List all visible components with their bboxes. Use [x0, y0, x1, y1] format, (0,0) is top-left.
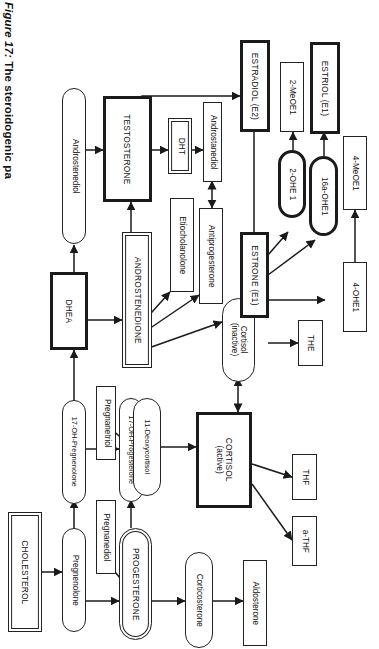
node-progesterone[interactable]: PROGESTERONE [119, 528, 152, 640]
node-label: ESTRIOL (E1) [321, 60, 330, 115]
node-17-oh-pregnenolone[interactable]: 17-OH-Pregnenolone [62, 400, 86, 504]
node-2-ohe-1[interactable]: 2-OHE 1 [278, 150, 306, 218]
node-label: Androstenediol [70, 139, 79, 194]
node-label: THE [306, 335, 315, 351]
node-label: 2-MeOE1 [288, 79, 297, 114]
node-label: TESTOSTERONE [123, 114, 132, 184]
node-estriol-e1[interactable]: ESTRIOL (E1) [310, 42, 340, 134]
node-androstenediol[interactable]: Androstenediol [62, 88, 86, 244]
node-16a-ohe1[interactable]: 16a-OHE1 [309, 156, 338, 236]
node-label: DHT [176, 138, 185, 155]
node-the[interactable]: THE [298, 320, 323, 366]
node-label: Aldosterone [251, 581, 260, 625]
node-cortisol-active[interactable]: CORTISOL (active) [196, 412, 252, 508]
node-androstanediol[interactable]: Androstanediol [203, 102, 222, 182]
node-label: ESTRADIOL (E2) [251, 52, 260, 119]
node-label: ANDROSTENEDIONE [133, 257, 142, 344]
node-corticosterone[interactable]: Corticosterone [185, 552, 213, 648]
node-4-meoe1[interactable]: 4-MeOE1 [343, 136, 367, 210]
node-11-deoxycortisol[interactable]: 11-Deoxycortisol [133, 398, 161, 496]
node-label: 17-OH-Pregnenolone [70, 417, 78, 487]
node-label: 11-Deoxycortisol [143, 420, 151, 475]
node-pregnanetriol[interactable]: Pregnanetriol [96, 386, 116, 460]
node-label: Etiocholanolone [178, 216, 187, 274]
node-label: CHOLESTEROL [21, 540, 30, 604]
node-label: THF [300, 469, 309, 485]
node-estradiol-e2[interactable]: ESTRADIOL (E2) [240, 40, 270, 132]
node-pregnanediol[interactable]: Pregnanediol [96, 500, 116, 574]
node-label: DHEA [65, 299, 74, 323]
node-label: Corticosterone [195, 573, 204, 626]
node-label: ESTRONE (E1) [250, 245, 259, 305]
node-testosterone[interactable]: TESTOSTERONE [103, 96, 152, 202]
node-dht[interactable]: DHT [168, 118, 192, 174]
node-cholesterol[interactable]: CHOLESTEROL [8, 512, 42, 632]
node-antiprogesterone[interactable]: Antiprogesterone [199, 208, 223, 304]
node-2-meoe1[interactable]: 2-MeOE1 [280, 62, 304, 132]
node-label: 4-OHE1 [351, 282, 360, 312]
node-label: CORTISOL (active) [215, 438, 232, 482]
node-etiocholanolone[interactable]: Etiocholanolone [170, 198, 194, 292]
steroidogenic-pathway-diagram: CHOLESTEROL Pregnenolone Pregnanediol 17… [0, 0, 379, 649]
node-pregnenolone[interactable]: Pregnenolone [62, 528, 86, 632]
node-label: 16a-OHE1 [319, 177, 328, 216]
node-label: Antiprogesterone [207, 225, 216, 287]
node-label: Cortisol (inactive) [230, 323, 247, 356]
node-dhea[interactable]: DHEA [50, 272, 88, 350]
node-label: PROGESTERONE [131, 548, 140, 621]
node-thf[interactable]: THF [292, 454, 317, 500]
node-label: Androstanediol [208, 115, 217, 170]
node-4-ohe1[interactable]: 4-OHE1 [343, 262, 367, 332]
node-a-thf[interactable]: a-THF [292, 516, 317, 566]
node-androstenedione[interactable]: ANDROSTENEDIONE [122, 232, 152, 368]
node-label: Pregnanetriol [102, 399, 111, 448]
node-label: 2-OHE 1 [288, 168, 297, 200]
node-label: a-THF [300, 529, 309, 552]
node-label: Pregnanediol [102, 513, 111, 561]
node-label: 4-MeOE1 [351, 155, 360, 190]
node-aldosterone[interactable]: Aldosterone [243, 560, 267, 646]
node-label: Pregnenolone [70, 555, 79, 606]
node-estrone-e1[interactable]: ESTRONE (E1) [240, 232, 269, 318]
